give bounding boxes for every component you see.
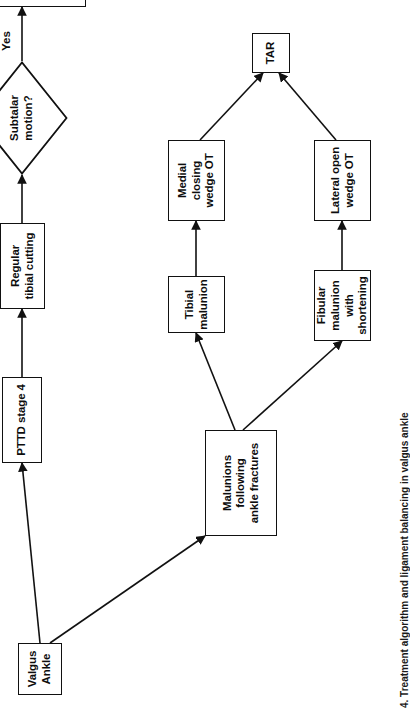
node-tar[interactable]: TAR: [252, 33, 290, 73]
node-malunions-label: Malunions following ankle fractures: [221, 434, 262, 532]
edge-lateralwedge-to-tar: [279, 73, 336, 140]
node-medial-closing-wedge-label: Medial closing wedge OT: [176, 144, 217, 217]
figure-caption: 4. Treatment algorithm and ligament bala…: [399, 0, 410, 708]
node-pttd-stage-4[interactable]: PTTD stage 4: [2, 377, 42, 463]
node-valgus-ankle-label: Valgus Ankle: [26, 647, 53, 691]
node-fibular-malunion-label: Fibular malunion with shortening: [315, 274, 369, 337]
edge-label-yes-text: Yes: [0, 31, 12, 51]
node-lateral-open-wedge-ot[interactable]: Lateral open wedge OT: [314, 140, 371, 221]
figure-caption-number: 4.: [399, 700, 410, 708]
edge-root-to-malunions: [50, 536, 205, 643]
edge-malunions-to-tibial: [196, 333, 235, 430]
node-treatment-block[interactable]: Calcaneus medial sliding OT FDL transfer…: [0, 0, 86, 7]
edge-malunions-to-fibular: [243, 341, 342, 430]
edge-label-yes: Yes: [0, 31, 12, 51]
node-valgus-ankle[interactable]: Valgus Ankle: [18, 643, 62, 695]
node-subtalar-motion-decision[interactable]: Subtalar motion?: [0, 61, 68, 175]
node-tibial-malunion[interactable]: Tibial malunion: [168, 276, 225, 333]
figure-caption-text: Treatment algorithm and ligament balanci…: [399, 412, 410, 697]
edge-medialwedge-to-tar: [200, 73, 263, 140]
node-malunions-following-ankle-fractures[interactable]: Malunions following ankle fractures: [205, 430, 277, 536]
node-pttd-stage-4-label: PTTD stage 4: [15, 384, 29, 456]
node-tar-label: TAR: [264, 42, 278, 64]
node-medial-closing-wedge-ot[interactable]: Medial closing wedge OT: [168, 140, 225, 221]
flowchart-canvas: Valgus Ankle PTTD stage 4 Regular tibial…: [0, 0, 411, 713]
node-fibular-malunion-with-shortening[interactable]: Fibular malunion with shortening: [314, 270, 371, 341]
node-regular-tibial-cutting[interactable]: Regular tibial cutting: [0, 223, 45, 309]
node-tibial-malunion-label: Tibial malunion: [183, 279, 210, 329]
node-lateral-open-wedge-label: Lateral open wedge OT: [329, 147, 356, 214]
node-subtalar-motion-label: Subtalar motion?: [0, 61, 68, 175]
node-regular-tibial-cutting-label: Regular tibial cutting: [9, 233, 36, 300]
figure-canvas: Valgus Ankle PTTD stage 4 Regular tibial…: [0, 0, 411, 713]
edge-root-to-pttd: [22, 463, 40, 643]
